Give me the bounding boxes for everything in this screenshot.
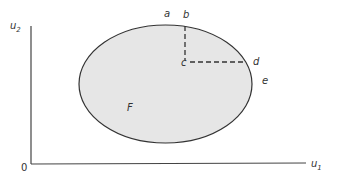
point-label-d: d	[253, 56, 260, 67]
diagram-canvas: u2 u1 0 a b c d e F	[0, 0, 337, 181]
origin-label: 0	[21, 162, 27, 173]
x-axis-label: u1	[311, 158, 322, 172]
point-label-b: b	[183, 9, 189, 20]
point-label-e: e	[262, 75, 268, 86]
point-label-a: a	[164, 8, 170, 19]
y-axis-label: u2	[10, 20, 21, 34]
x-axis	[31, 163, 306, 164]
y-axis-label-sub: 2	[16, 26, 21, 34]
feasible-set-ellipse	[79, 25, 252, 143]
point-label-c: c	[181, 57, 187, 68]
x-axis-label-sub: 1	[317, 164, 321, 172]
region-label-F: F	[127, 102, 133, 113]
